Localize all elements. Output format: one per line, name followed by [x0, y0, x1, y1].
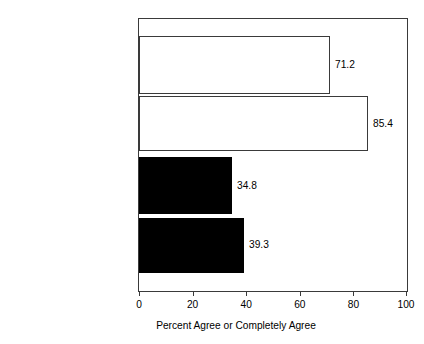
- bar-congress-job-discrimination: [139, 36, 330, 94]
- x-tick-label-100: 100: [398, 299, 415, 310]
- x-tick-label-0: 0: [136, 299, 142, 310]
- value-label-2: 85.4: [373, 118, 393, 129]
- x-tick-mark-20: [193, 291, 194, 296]
- x-axis-title-text: Percent Agree or Completely Agree: [156, 320, 316, 331]
- plot-area: Congress should pass laws to protect tra…: [138, 18, 408, 292]
- x-tick-label-20: 20: [187, 299, 198, 310]
- x-tick-label-80: 80: [348, 299, 359, 310]
- bar-same-rights-protections: [139, 96, 368, 151]
- x-axis-title: Percent Agree or Completely Agree: [0, 320, 424, 331]
- x-tick-mark-0: [139, 291, 140, 296]
- x-tick-mark-80: [353, 291, 354, 296]
- bar-chart-figure: Congress should pass laws to protect tra…: [0, 0, 424, 344]
- x-tick-mark-100: [406, 291, 407, 296]
- x-tick-label-40: 40: [241, 299, 252, 310]
- x-tick-mark-40: [246, 291, 247, 296]
- value-label-4: 39.3: [249, 239, 269, 250]
- x-tick-mark-60: [300, 291, 301, 296]
- value-label-1: 71.2: [335, 59, 355, 70]
- bar-refuse-services-religious-beliefs: [139, 157, 232, 214]
- x-tick-label-60: 60: [294, 299, 305, 310]
- value-label-3: 34.8: [237, 180, 257, 191]
- bar-right-not-to-hire: [139, 218, 244, 273]
